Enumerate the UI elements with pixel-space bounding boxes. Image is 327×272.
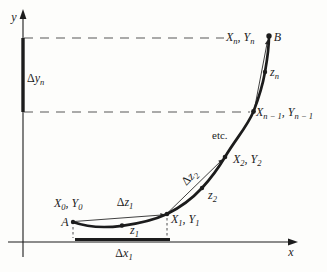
point-zn-dot (263, 70, 267, 74)
label-part: n (275, 71, 279, 81)
label-etc: etc. (212, 129, 228, 141)
label-part: , (245, 152, 248, 166)
label-part: 2 (257, 158, 262, 168)
label-part: n − 1 (295, 111, 314, 121)
label-part: n (250, 36, 254, 46)
label-z2: z2 (207, 188, 218, 204)
label-part: 1 (128, 252, 132, 262)
point-z1-dot (120, 223, 124, 227)
label-delta-z-2: Δz2 (178, 166, 202, 190)
label-x2-y2: X2,Y2 (232, 152, 262, 168)
label-delta-z-1: Δz1 (117, 195, 134, 211)
label-part: , (183, 212, 186, 226)
label-x1-y1: X1,Y1 (170, 212, 200, 228)
x-axis-label: x (287, 245, 294, 259)
label-delta-x-1: Δx1 (115, 246, 132, 262)
label-part: 2 (213, 194, 218, 204)
label-delta-y-n: Δyn (27, 71, 44, 87)
label-xn-yn: Xn,Yn (225, 30, 255, 46)
label-part: n − 1 (263, 111, 282, 121)
y-axis-label: y (10, 10, 17, 24)
label-part: 1 (129, 201, 133, 211)
point-z2-dot (200, 186, 204, 190)
curve-a-to-b (73, 36, 269, 227)
point-b-dot (266, 33, 271, 38)
label-part: 0 (78, 202, 83, 212)
label-point-a: A (60, 215, 69, 229)
label-part: , (282, 105, 285, 119)
point-x2-dot (223, 155, 228, 160)
label-part: , (238, 30, 241, 44)
label-xn1-yn1: Xn − 1,Yn − 1 (255, 105, 313, 121)
label-part: 1 (195, 218, 199, 228)
chord-delta-z2 (168, 160, 223, 213)
label-part: n (40, 77, 44, 87)
label-zn: zn (269, 65, 279, 81)
diagram-svg: y x Δyn Δx1 Δz1 Δz2 z1 z2 zn X0,Y0 X1,Y1… (0, 0, 327, 272)
label-part: 1 (135, 229, 139, 239)
y-axis-arrow-icon (20, 9, 27, 19)
point-x1-dot (165, 212, 170, 217)
label-x0-y0: X0,Y0 (53, 196, 83, 212)
increment-diagram: y x Δyn Δx1 Δz1 Δz2 z1 z2 zn X0,Y0 X1,Y1… (0, 0, 327, 272)
label-part: , (66, 196, 69, 210)
point-a-dot (71, 220, 75, 224)
label-z1: z1 (129, 223, 139, 239)
label-point-b: B (274, 30, 282, 44)
